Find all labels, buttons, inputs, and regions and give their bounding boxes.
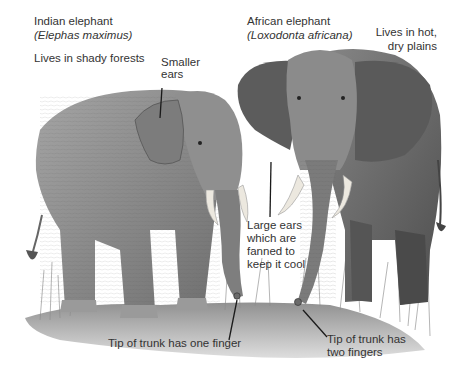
african-habitat-label-line1: Lives in hot, [376,26,437,39]
african-habitat-label-line2: dry plains [388,40,437,53]
indian-elephant-name: Indian elephant [34,15,113,28]
african-elephant-name: African elephant [247,15,330,28]
one-finger-label: Tip of trunk has one finger [108,337,241,350]
indian-elephant [26,90,248,318]
indian-elephant-latin-name: (Elephas maximus) [34,29,132,42]
smaller-ears-label-line2: ears [161,68,183,81]
large-ears-label-line1: Large ears [247,219,302,232]
african-elephant-latin-name: (Loxodonta africana) [247,29,352,42]
indian-habitat-label: Lives in shady forests [34,52,145,65]
large-ears-label-line4: keep it cool [247,258,305,271]
two-fingers-label-line2: two fingers [327,346,383,359]
elephant-comparison-diagram: Indian elephant (Elephas maximus) Lives … [0,0,470,378]
large-ears-label-line2: which are [247,232,296,245]
large-ears-label-line3: fanned to [247,245,295,258]
pointer-large-ears [270,162,271,217]
african-trunk-tip [295,299,302,306]
two-fingers-label-line1: Tip of trunk has [327,333,406,346]
